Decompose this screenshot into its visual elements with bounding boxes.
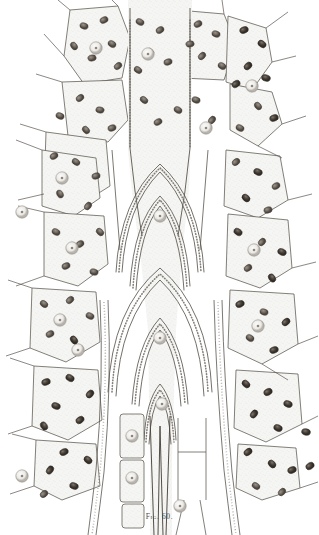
- figure-plate: Fig. 60.: [0, 0, 319, 535]
- nucleus: [154, 210, 166, 222]
- nucleus: [56, 172, 68, 184]
- nucleus: [90, 42, 102, 54]
- nucleus: [54, 314, 66, 326]
- nucleus: [174, 500, 186, 512]
- botanical-section-illustration: [0, 0, 319, 535]
- nucleus: [248, 244, 260, 256]
- nucleus: [156, 398, 168, 410]
- nucleus: [126, 430, 138, 442]
- nucleus: [72, 344, 84, 356]
- nucleus: [16, 470, 28, 482]
- nucleus: [126, 472, 138, 484]
- nucleus: [66, 242, 78, 254]
- nucleus: [246, 80, 258, 92]
- figure-caption: Fig. 60.: [0, 512, 319, 521]
- nucleus: [16, 206, 28, 218]
- nucleus: [154, 332, 166, 344]
- figure-caption-text: Fig. 60.: [146, 512, 173, 521]
- nucleus: [252, 320, 264, 332]
- nucleus: [200, 122, 212, 134]
- nucleus: [142, 48, 154, 60]
